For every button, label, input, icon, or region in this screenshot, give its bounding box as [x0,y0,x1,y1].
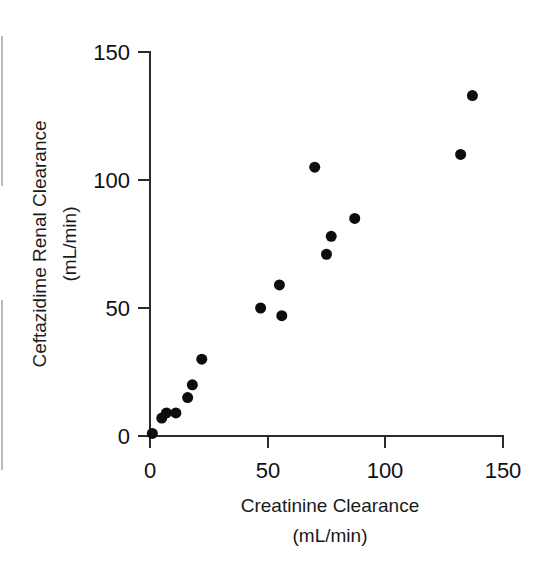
y-axis-units: (mL/min) [59,207,80,282]
data-point [147,428,158,439]
y-tick-label-100: 100 [93,168,130,193]
data-point [255,303,266,314]
data-point [467,90,478,101]
x-tick-label-0: 0 [144,458,156,483]
data-point [170,407,181,418]
x-axis-title: Creatinine Clearance [241,495,420,516]
data-point [349,213,360,224]
data-point [187,379,198,390]
data-point [196,354,207,365]
x-axis-units: (mL/min) [293,525,368,546]
y-axis-title: Ceftazidime Renal Clearance [29,120,50,367]
data-point [326,231,337,242]
data-point [455,149,466,160]
scatter-plot-figure: 150 100 50 0 0 50 100 150 Creatinine Cle… [0,0,542,577]
data-point [274,279,285,290]
x-tick-label-100: 100 [367,458,404,483]
data-point [321,249,332,260]
figure-background [0,0,542,577]
data-point [276,310,287,321]
data-point [309,162,320,173]
y-tick-label-150: 150 [93,40,130,65]
y-tick-label-0: 0 [118,424,130,449]
y-tick-label-50: 50 [106,296,130,321]
x-tick-label-150: 150 [485,458,522,483]
data-point [161,407,172,418]
data-point [182,392,193,403]
x-tick-label-50: 50 [256,458,280,483]
